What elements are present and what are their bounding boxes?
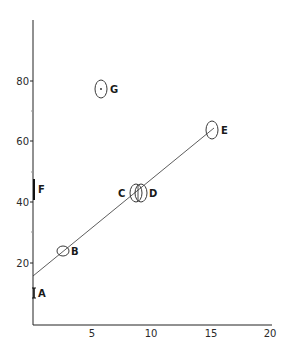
- x-tick-10: 10: [145, 328, 158, 339]
- label-e: E: [221, 125, 228, 136]
- label-f: F: [38, 184, 45, 195]
- y-tick-60: 60: [16, 136, 29, 147]
- scatter-chart: 80 60 40 20 5 10 15 20 A F G B C D E: [0, 0, 290, 353]
- label-b: B: [71, 246, 79, 257]
- x-tick-15: 15: [205, 328, 218, 339]
- y-tick-80: 80: [16, 76, 29, 87]
- x-tick-20: 20: [264, 328, 277, 339]
- label-c: C: [118, 188, 125, 199]
- y-tick-40: 40: [16, 197, 29, 208]
- y-tick-20: 20: [16, 258, 29, 269]
- fit-line: [33, 128, 214, 276]
- point-d-marker: [135, 184, 147, 202]
- label-a: A: [38, 288, 46, 299]
- point-c-marker: [130, 184, 142, 202]
- x-tick-5: 5: [89, 328, 95, 339]
- label-d: D: [149, 188, 157, 199]
- label-g: G: [110, 84, 118, 95]
